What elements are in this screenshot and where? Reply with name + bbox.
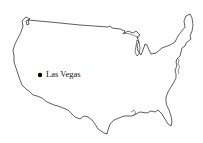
las-vegas-label: Las Vegas: [46, 69, 81, 79]
us-map: [0, 0, 203, 143]
las-vegas-marker: [38, 73, 42, 77]
chesapeake-coast: [177, 58, 180, 74]
